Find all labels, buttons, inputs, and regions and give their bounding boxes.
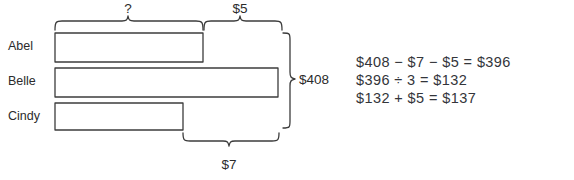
- brace-label-total: $408: [299, 73, 329, 87]
- equation-line-1: $408 − $7 − $5 = $396: [356, 54, 511, 70]
- brace-top-left: [55, 16, 203, 30]
- bar-label-cindy: Cindy: [8, 110, 40, 123]
- brace-bottom: [183, 133, 279, 146]
- bar-model-diagram: Abel Belle Cindy ? $5 $408 $7 $408 − $7 …: [0, 0, 574, 180]
- brace-label-unknown: ?: [118, 2, 138, 16]
- bar-abel: [55, 33, 203, 62]
- bar-label-abel: Abel: [8, 40, 33, 53]
- equation-line-3: $132 + $5 = $137: [356, 90, 476, 106]
- bar-model-graphics: [0, 0, 574, 180]
- bar-label-belle: Belle: [8, 75, 36, 88]
- bar-belle: [55, 68, 278, 97]
- brace-right-total: [283, 33, 295, 128]
- brace-label-five: $5: [222, 2, 258, 16]
- bar-cindy: [55, 103, 183, 130]
- brace-label-seven: $7: [211, 158, 247, 172]
- equation-line-2: $396 ÷ 3 = $132: [356, 72, 467, 88]
- brace-top-right: [204, 16, 282, 30]
